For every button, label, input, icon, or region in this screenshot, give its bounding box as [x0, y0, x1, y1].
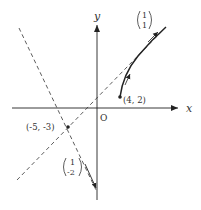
point-label-4-2: (4, 2) [123, 95, 146, 105]
svg-text:-2: -2 [67, 168, 75, 177]
dashed-line-direction-1-neg2 [19, 28, 96, 190]
right-paren-icon [149, 11, 152, 29]
svg-text:1: 1 [142, 11, 147, 20]
y-axis-label: y [93, 10, 101, 23]
right-paren-icon [79, 158, 82, 176]
origin-label: O [100, 113, 107, 123]
vector-arrow-1-neg2 [85, 164, 96, 188]
vector-label-1-1: 1 1 [138, 11, 152, 30]
coordinate-diagram: y x O (4, 2) (-5, -3) 1 1 1 -2 [0, 0, 201, 210]
point-label-neg5-neg3: (-5, -3) [26, 122, 55, 132]
point-neg5-neg3 [66, 125, 70, 129]
svg-text:1: 1 [142, 21, 147, 30]
left-paren-icon [64, 158, 67, 176]
left-paren-icon [138, 11, 141, 29]
x-axis-label: x [186, 102, 193, 115]
solid-curve [120, 27, 166, 97]
vector-label-1-neg2: 1 -2 [64, 158, 82, 177]
svg-text:1: 1 [70, 158, 75, 167]
point-4-2 [118, 95, 122, 99]
